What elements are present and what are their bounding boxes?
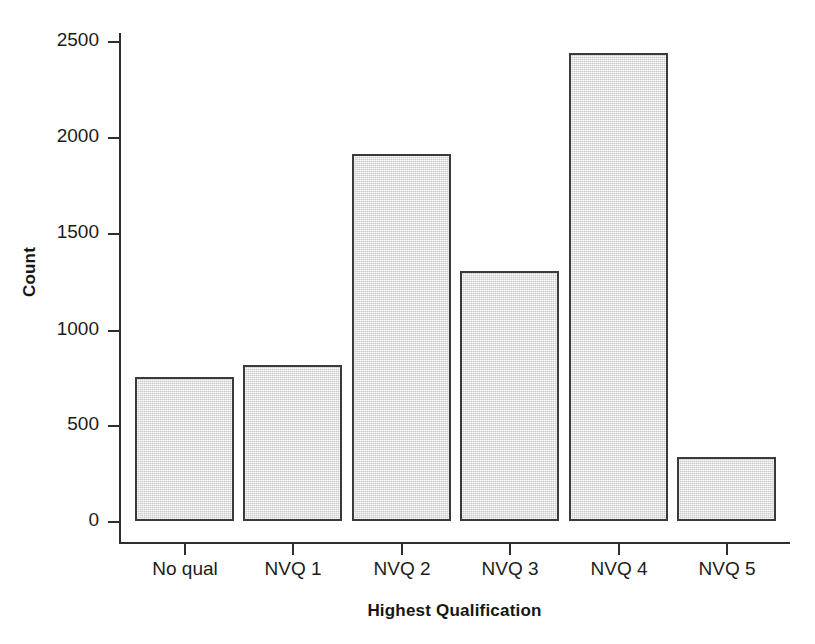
bar-nvq-3 [460,271,559,521]
y-axis-tick: 2500 [108,41,119,43]
x-axis-tick-label: NVQ 4 [590,558,647,580]
x-axis-tick-label: NVQ 2 [373,558,430,580]
y-axis-tick: 2000 [108,137,119,139]
x-axis-tick-label: No qual [152,558,218,580]
x-axis-tick: NVQ 5 [726,544,728,555]
x-axis-line [119,542,790,544]
y-axis-tick: 500 [108,425,119,427]
x-axis-tick: NVQ 1 [292,544,294,555]
x-axis-tick-label: NVQ 3 [481,558,538,580]
bar-nvq-2 [352,154,451,521]
x-axis-tick: NVQ 4 [618,544,620,555]
y-axis-tick: 0 [108,521,119,523]
y-axis-tick-label: 1500 [57,222,108,242]
bar-nvq-4 [569,53,668,521]
x-axis-tick-label: NVQ 1 [264,558,321,580]
x-axis-tick: No qual [184,544,186,555]
x-axis-tick: NVQ 2 [401,544,403,555]
y-axis-tick: 1000 [108,330,119,332]
y-axis-tick-label: 0 [88,510,108,530]
y-axis-tick-label: 2000 [57,126,108,146]
x-axis-tick-label: NVQ 5 [698,558,755,580]
x-axis-tick: NVQ 3 [509,544,511,555]
y-axis-title: Count [20,242,40,302]
bar-chart: Count 2500 2000 1500 1000 500 0 No qual … [0,0,815,644]
y-axis-tick-label: 1000 [57,319,108,339]
bar-no-qual [135,377,234,521]
y-axis-tick-label: 500 [67,414,108,434]
bar-nvq-1 [243,365,342,521]
x-axis-title: Highest Qualification [119,601,790,621]
y-axis-tick: 1500 [108,233,119,235]
y-axis-line [119,33,121,544]
bar-nvq-5 [677,457,776,521]
y-axis-tick-label: 2500 [57,30,108,50]
